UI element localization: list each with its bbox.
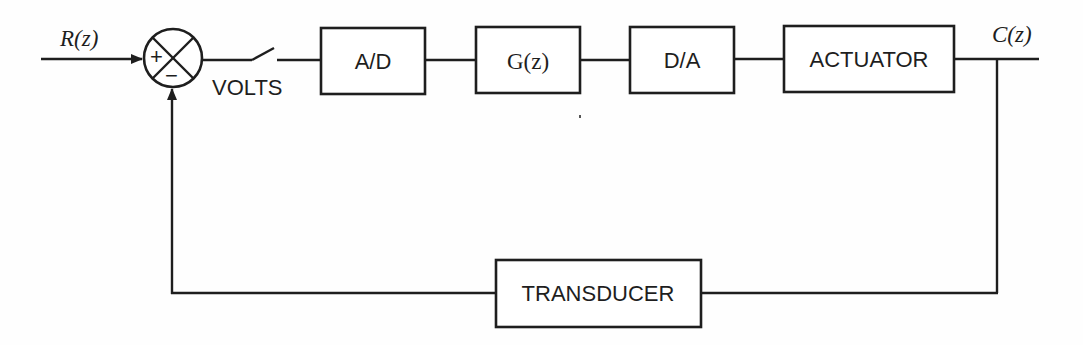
plus-sign: + — [150, 44, 163, 69]
block-ad-label: A/D — [355, 49, 392, 74]
summing-junction: + − — [144, 29, 202, 88]
block-gz-label: G(z) — [507, 49, 549, 74]
block-gz: G(z) — [476, 27, 580, 93]
block-da-label: D/A — [664, 48, 701, 73]
block-diagram: R(z) + − VOLTS A/D G(z) — [0, 0, 1083, 345]
output-label: C(z) — [992, 22, 1032, 47]
block-transducer: TRANSDUCER — [496, 260, 701, 327]
output-signal: C(z) — [954, 22, 1039, 59]
scan-speck — [579, 115, 581, 118]
block-da: D/A — [630, 27, 734, 93]
switch-blade — [252, 48, 274, 60]
input-label: R(z) — [59, 26, 98, 51]
block-ad: A/D — [321, 28, 425, 94]
block-transducer-label: TRANSDUCER — [522, 281, 675, 306]
switch-label: VOLTS — [212, 75, 283, 100]
minus-sign: − — [165, 63, 178, 88]
block-actuator: ACTUATOR — [784, 26, 954, 92]
input-signal: R(z) — [41, 26, 142, 59]
block-actuator-label: ACTUATOR — [810, 47, 929, 72]
sampler-switch: VOLTS — [202, 48, 321, 100]
